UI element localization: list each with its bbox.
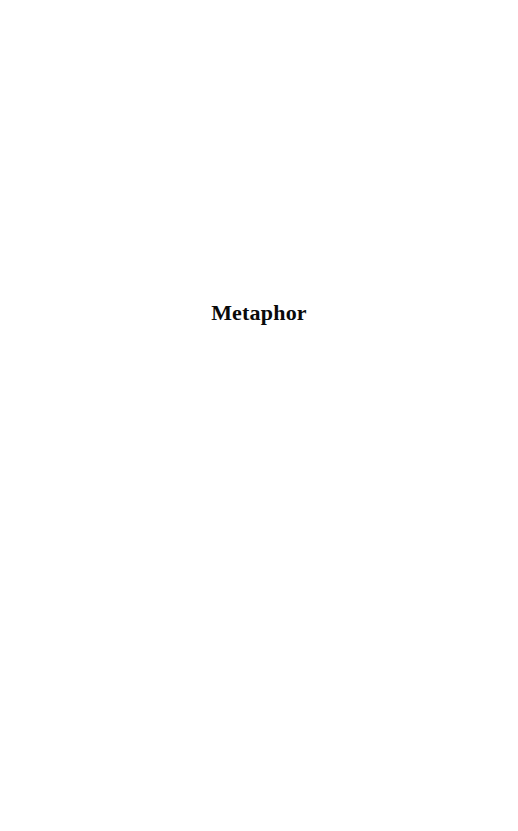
document-page: Metaphor	[0, 0, 518, 831]
half-title: Metaphor	[0, 299, 518, 327]
